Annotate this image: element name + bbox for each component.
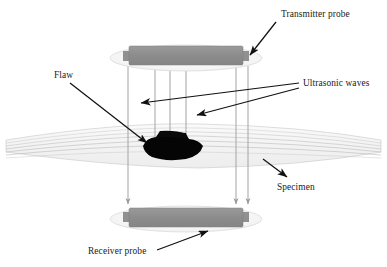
receiver-probe[interactable]: [110, 206, 262, 232]
transmitter-probe-body: [129, 46, 243, 65]
label-ultrasonic-waves: Ultrasonic waves: [303, 78, 370, 88]
label-specimen: Specimen: [277, 182, 315, 192]
label-transmitter-probe: Transmitter probe: [281, 9, 350, 19]
transmitter-probe[interactable]: [110, 45, 262, 71]
receiver-probe-body: [129, 208, 243, 227]
leader-receiver-probe: [157, 231, 208, 250]
label-flaw: Flaw: [54, 70, 73, 80]
label-receiver-probe: Receiver probe: [88, 246, 146, 256]
leader-ultrasonic-waves-upper: [141, 83, 299, 103]
leader-transmitter-probe: [250, 22, 276, 55]
ultrasonic-inspection-diagram: Transmitter probe Flaw Ultrasonic waves …: [0, 0, 387, 267]
